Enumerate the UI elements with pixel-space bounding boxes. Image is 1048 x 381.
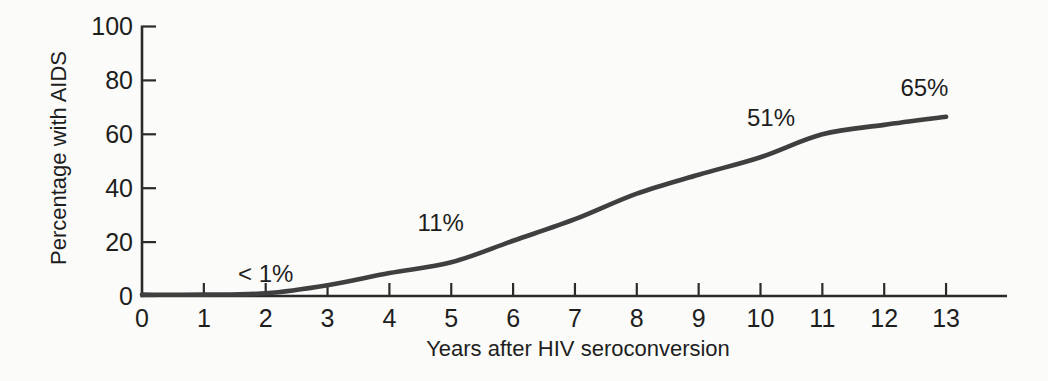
x-tick-label: 3 xyxy=(321,304,335,332)
x-tick-label: 13 xyxy=(932,304,960,332)
x-tick-label: 4 xyxy=(382,304,396,332)
y-tick-label: 0 xyxy=(119,282,133,310)
data-point-annotation: < 1% xyxy=(238,260,293,287)
data-point-annotation: 11% xyxy=(418,209,464,236)
y-tick-label: 40 xyxy=(105,174,133,202)
y-tick-label: 20 xyxy=(105,228,133,256)
x-tick-label: 10 xyxy=(747,304,775,332)
aids-progression-line-chart: 020406080100012345678910111213< 1%11%51%… xyxy=(0,0,1048,381)
data-point-annotation: 65% xyxy=(900,74,948,101)
chart-figure: 020406080100012345678910111213< 1%11%51%… xyxy=(0,0,1048,381)
x-tick-label: 5 xyxy=(444,304,458,332)
data-point-annotation: 51% xyxy=(747,104,795,131)
y-tick-label: 60 xyxy=(105,120,133,148)
y-tick-label: 80 xyxy=(105,66,133,94)
x-tick-label: 0 xyxy=(135,304,149,332)
y-axis-title: Percentage with AIDS xyxy=(46,51,71,265)
x-tick-label: 7 xyxy=(568,304,582,332)
plot-area: 020406080100012345678910111213< 1%11%51%… xyxy=(91,12,1007,332)
x-tick-label: 6 xyxy=(506,304,520,332)
x-tick-label: 12 xyxy=(870,304,898,332)
x-tick-label: 2 xyxy=(259,304,273,332)
x-tick-label: 9 xyxy=(692,304,706,332)
x-tick-label: 11 xyxy=(809,304,835,332)
x-axis-title: Years after HIV seroconversion xyxy=(426,336,730,361)
x-tick-label: 1 xyxy=(197,304,211,332)
y-tick-label: 100 xyxy=(91,12,133,40)
x-tick-label: 8 xyxy=(630,304,644,332)
